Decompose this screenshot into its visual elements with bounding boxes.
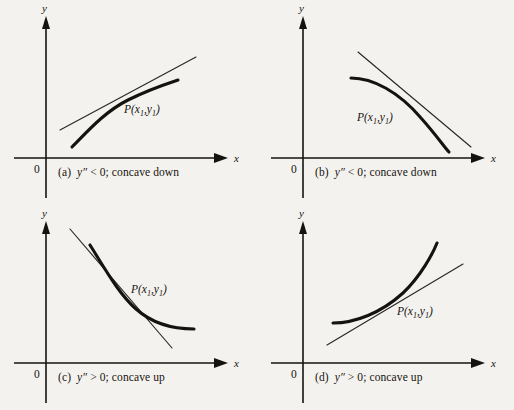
point-label-P: P(x1,y1) (396, 305, 433, 320)
y-axis-label: y (298, 2, 304, 14)
x-axis-label: x (490, 357, 496, 369)
concavity-figure: y x 0 P(x1,y1) (a) y″ < 0; concave down … (0, 0, 514, 410)
tangent-line (60, 57, 196, 130)
origin-label: 0 (34, 163, 40, 175)
panel-c-tag: (c) (58, 371, 71, 383)
panel-b: y x 0 P(x1,y1) (b) y″ < 0; concave down (257, 0, 514, 205)
tangent-line (327, 264, 463, 345)
panel-a-tag: (a) (58, 166, 71, 178)
point-label-P: P(x1,y1) (123, 103, 160, 118)
y-axis-arrowhead (42, 221, 50, 234)
x-axis-arrowhead (214, 153, 228, 163)
panel-a-concavity: concave down (112, 166, 179, 178)
panel-d-relation: > 0; (348, 371, 367, 383)
panel-a-relation: < 0; (90, 166, 109, 178)
panel-b-caption: (b) y″ < 0; concave down (315, 166, 437, 178)
panel-d-expression: y″ (335, 371, 345, 383)
x-axis-arrowhead (214, 358, 228, 368)
panel-c: y x 0 P(x1,y1) (c) y″ > 0; concave up (0, 205, 257, 410)
y-axis-arrowhead (299, 16, 307, 29)
x-axis-label: x (233, 152, 239, 164)
point-label-P: P(x1,y1) (130, 283, 167, 298)
panel-b-tag: (b) (315, 166, 329, 178)
y-axis-label: y (41, 207, 47, 219)
panel-c-expression: y″ (77, 371, 87, 383)
origin-label: 0 (34, 368, 40, 380)
tangent-line (358, 52, 471, 147)
panel-b-concavity: concave down (369, 166, 436, 178)
x-axis-arrowhead (471, 153, 485, 163)
y-axis-arrowhead (299, 221, 307, 234)
panel-b-expression: y″ (335, 166, 345, 178)
x-axis-arrowhead (471, 358, 485, 368)
y-axis-label: y (298, 207, 304, 219)
panel-d: y x 0 P(x1,y1) (d) y″ > 0; concave up (257, 205, 514, 410)
origin-label: 0 (291, 163, 297, 175)
panel-a-expression: y″ (77, 166, 87, 178)
y-axis-label: y (41, 2, 47, 14)
panel-b-relation: < 0; (348, 166, 367, 178)
panel-a-caption: (a) y″ < 0; concave down (58, 166, 179, 178)
x-axis-label: x (233, 357, 239, 369)
panel-d-caption: (d) y″ > 0; concave up (315, 371, 423, 383)
panel-d-tag: (d) (315, 371, 329, 383)
panel-c-concavity: concave up (112, 371, 165, 383)
x-axis-label: x (490, 152, 496, 164)
origin-label: 0 (291, 368, 297, 380)
panel-a: y x 0 P(x1,y1) (a) y″ < 0; concave down (0, 0, 257, 205)
point-label-P: P(x1,y1) (356, 111, 393, 126)
panel-c-caption: (c) y″ > 0; concave up (58, 371, 165, 383)
panel-d-concavity: concave up (369, 371, 422, 383)
y-axis-arrowhead (42, 16, 50, 29)
panel-c-relation: > 0; (90, 371, 109, 383)
